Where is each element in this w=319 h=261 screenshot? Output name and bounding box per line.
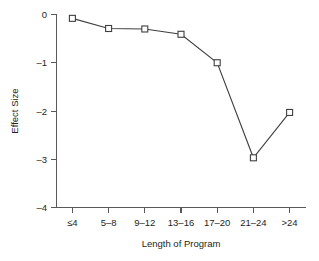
y-tick-label-0: 0: [42, 9, 47, 20]
x-tick-label-4: 17–20: [204, 217, 230, 228]
x-axis-tick-labels: ≤4 5–8 9–12 13–16 17–20 21–24 >24: [67, 217, 298, 228]
x-tick-label-5: 21–24: [240, 217, 266, 228]
y-tick-label-3: –3: [36, 154, 47, 165]
chart-background: [0, 0, 319, 261]
chart-figure: 0 –1 –2 –3 –4 Effect Size ≤4 5–8 9–12 13…: [0, 0, 319, 261]
x-tick-label-1: 5–8: [101, 217, 117, 228]
y-tick-label-4: –4: [36, 202, 47, 213]
data-point-marker: [106, 25, 112, 31]
x-axis-title: Length of Program: [142, 238, 221, 249]
effect-size-line-chart: 0 –1 –2 –3 –4 Effect Size ≤4 5–8 9–12 13…: [0, 0, 319, 261]
data-point-marker: [287, 109, 293, 115]
x-tick-label-3: 13–16: [168, 217, 194, 228]
y-tick-label-2: –2: [36, 106, 47, 117]
data-point-marker: [69, 15, 75, 21]
data-point-marker: [250, 155, 256, 161]
data-point-marker: [142, 26, 148, 32]
data-point-marker: [178, 31, 184, 37]
x-tick-label-0: ≤4: [67, 217, 78, 228]
y-tick-label-1: –1: [36, 57, 47, 68]
y-axis-title: Effect Size: [9, 88, 20, 133]
data-point-marker: [214, 60, 220, 66]
x-tick-label-2: 9–12: [134, 217, 155, 228]
x-tick-label-6: >24: [282, 217, 298, 228]
